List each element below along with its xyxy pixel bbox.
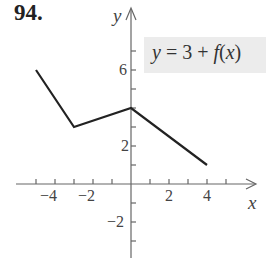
legend-text: y = 3 + f(x)	[152, 41, 241, 64]
y-tick-label-6: 6	[119, 61, 127, 78]
x-tick-label-2: 2	[165, 187, 173, 204]
x-axis-label: x	[247, 192, 257, 213]
x-tick-label-4: 4	[203, 187, 211, 204]
y-ticks	[131, 51, 136, 241]
y-tick-label-m2: −2	[107, 213, 124, 230]
y-tick-label-2: 2	[121, 137, 129, 154]
x-tick-label-m4: −4	[40, 187, 57, 204]
y-axis-label: y	[111, 5, 122, 26]
x-tick-label-m2: −2	[78, 187, 95, 204]
